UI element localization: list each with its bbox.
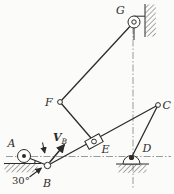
- label-D: D: [142, 142, 152, 155]
- pin-A-center: [22, 154, 26, 158]
- velocity-subscript: B: [61, 137, 68, 146]
- pin-D-center: [129, 155, 134, 160]
- velocity-label: VB: [53, 131, 68, 146]
- angle-label: 30°: [12, 175, 30, 186]
- angle-arc: [35, 161, 36, 164]
- fixed-support-A: [4, 164, 41, 173]
- mechanism-figure: G F C E D A B 30° VB: [0, 0, 174, 194]
- fixed-support-D: [116, 164, 149, 173]
- label-F: F: [44, 96, 53, 109]
- pin-G-inner: [132, 20, 136, 24]
- label-G: G: [116, 4, 125, 17]
- label-A: A: [7, 137, 16, 150]
- mechanism-diagram: G F C E D A B 30° VB: [0, 0, 174, 194]
- label-C: C: [163, 99, 172, 112]
- wall-hatch-G: [145, 5, 156, 37]
- link-FG: [60, 22, 134, 102]
- joint-B: [44, 162, 50, 168]
- ground-hatch-D: [119, 164, 147, 173]
- joint-C: [156, 103, 161, 108]
- label-E: E: [101, 143, 110, 156]
- joint-E: [92, 139, 97, 144]
- ground-hatch-A: [5, 164, 38, 173]
- direction-indicator-arrow: [43, 143, 45, 154]
- label-B: B: [42, 177, 51, 190]
- joint-F: [58, 100, 63, 105]
